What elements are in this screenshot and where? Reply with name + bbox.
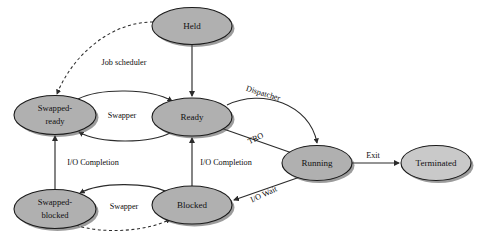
node-swapped-blocked[interactable]: Swapped- blocked [14, 190, 99, 232]
node-held[interactable]: Held [152, 8, 235, 48]
node-terminated-ellipse [401, 146, 471, 181]
node-swapped-ready-ellipse [14, 96, 96, 135]
edge-label-tro: TRO [246, 131, 265, 146]
node-blocked-ellipse [152, 186, 232, 224]
node-running[interactable]: Running [282, 146, 355, 184]
edge-labels-layer: Job scheduler Swapper Dispatcher TRO Exi… [67, 58, 380, 211]
process-state-diagram: Held Swapped- ready Ready Running [0, 0, 478, 237]
node-held-ellipse [152, 8, 232, 45]
edge-label-swapper-top: Swapper [108, 111, 137, 120]
node-ready-ellipse [152, 98, 232, 136]
edge-label-io-completion-right: I/O Completion [200, 158, 252, 167]
edge-label-io-completion-left: I/O Completion [67, 158, 119, 167]
node-terminated[interactable]: Terminated [401, 146, 474, 184]
edge-label-job-scheduler: Job scheduler [102, 58, 147, 67]
nodes-layer: Held Swapped- ready Ready Running [14, 8, 474, 232]
edge-blocked-to-swapped-blocked [80, 185, 168, 193]
diagram-canvas: Held Swapped- ready Ready Running [0, 0, 478, 237]
edge-ready-to-swapped-ready [79, 132, 172, 141]
node-swapped-ready[interactable]: Swapped- ready [14, 96, 99, 138]
edge-label-swapper-bottom: Swapper [110, 202, 139, 211]
node-blocked[interactable]: Blocked [152, 186, 235, 227]
edge-label-io-wait: I/O Wait [249, 184, 279, 204]
edge-label-dispatcher: Dispatcher [245, 84, 282, 103]
edge-label-exit: Exit [366, 151, 380, 160]
node-swapped-blocked-ellipse [14, 190, 96, 229]
node-running-ellipse [282, 146, 352, 181]
edge-ready-to-running [227, 98, 317, 143]
edge-swapped-ready-to-ready [78, 91, 172, 101]
node-ready[interactable]: Ready [152, 98, 235, 139]
